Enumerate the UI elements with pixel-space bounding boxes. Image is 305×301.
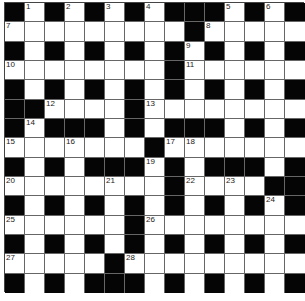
crossword-cell[interactable] [265,22,285,41]
crossword-cell[interactable] [145,61,165,80]
crossword-cell[interactable] [125,177,145,196]
crossword-cell[interactable] [245,22,265,41]
crossword-cell[interactable] [105,80,125,99]
crossword-cell[interactable]: 9 [185,42,205,61]
crossword-cell[interactable] [205,61,225,80]
crossword-cell[interactable] [25,274,45,293]
crossword-cell[interactable]: 15 [5,138,25,157]
crossword-cell[interactable] [85,138,105,157]
crossword-cell[interactable] [265,42,285,61]
crossword-cell[interactable] [265,138,285,157]
crossword-cell[interactable] [105,196,125,215]
crossword-cell[interactable] [105,61,125,80]
crossword-cell[interactable] [165,22,185,41]
crossword-cell[interactable] [145,80,165,99]
crossword-cell[interactable] [145,42,165,61]
crossword-cell[interactable] [185,254,205,273]
crossword-cell[interactable] [145,177,165,196]
crossword-cell[interactable]: 28 [125,254,145,273]
crossword-cell[interactable] [65,61,85,80]
crossword-cell[interactable] [45,254,65,273]
crossword-cell[interactable]: 1 [25,3,45,22]
crossword-cell[interactable] [65,158,85,177]
crossword-cell[interactable] [205,216,225,235]
crossword-cell[interactable] [265,80,285,99]
crossword-cell[interactable]: 19 [145,158,165,177]
crossword-cell[interactable]: 18 [185,138,205,157]
crossword-cell[interactable] [65,196,85,215]
crossword-cell[interactable] [105,138,125,157]
crossword-cell[interactable] [85,177,105,196]
crossword-cell[interactable] [65,100,85,119]
crossword-cell[interactable] [65,177,85,196]
crossword-cell[interactable] [25,80,45,99]
crossword-cell[interactable] [225,80,245,99]
crossword-cell[interactable] [185,100,205,119]
crossword-cell[interactable] [265,100,285,119]
crossword-cell[interactable] [65,216,85,235]
crossword-cell[interactable] [145,235,165,254]
crossword-cell[interactable] [45,138,65,157]
crossword-cell[interactable] [165,216,185,235]
crossword-cell[interactable] [125,22,145,41]
crossword-cell[interactable] [25,216,45,235]
crossword-cell[interactable] [265,61,285,80]
crossword-cell[interactable] [225,138,245,157]
crossword-cell[interactable] [285,216,305,235]
crossword-cell[interactable] [65,254,85,273]
crossword-cell[interactable] [145,119,165,138]
crossword-cell[interactable] [145,274,165,293]
crossword-cell[interactable] [205,254,225,273]
crossword-cell[interactable] [105,216,125,235]
crossword-cell[interactable] [225,196,245,215]
crossword-cell[interactable] [45,177,65,196]
crossword-cell[interactable]: 11 [185,61,205,80]
crossword-cell[interactable] [85,61,105,80]
crossword-cell[interactable]: 8 [205,22,225,41]
crossword-cell[interactable] [185,216,205,235]
crossword-cell[interactable] [185,196,205,215]
crossword-cell[interactable] [225,216,245,235]
crossword-cell[interactable]: 2 [65,3,85,22]
crossword-cell[interactable] [45,216,65,235]
crossword-cell[interactable] [145,22,165,41]
crossword-cell[interactable] [25,61,45,80]
crossword-cell[interactable] [25,158,45,177]
crossword-cell[interactable]: 10 [5,61,25,80]
crossword-cell[interactable] [245,216,265,235]
crossword-cell[interactable] [65,235,85,254]
crossword-cell[interactable] [205,100,225,119]
crossword-cell[interactable] [105,119,125,138]
crossword-cell[interactable] [245,61,265,80]
crossword-cell[interactable] [265,254,285,273]
crossword-cell[interactable] [225,100,245,119]
crossword-cell[interactable] [165,254,185,273]
crossword-cell[interactable] [285,61,305,80]
crossword-cell[interactable]: 27 [5,254,25,273]
crossword-cell[interactable] [205,177,225,196]
crossword-cell[interactable] [25,138,45,157]
crossword-cell[interactable] [85,100,105,119]
crossword-cell[interactable] [225,22,245,41]
crossword-cell[interactable] [65,42,85,61]
crossword-cell[interactable] [285,254,305,273]
crossword-cell[interactable] [25,235,45,254]
crossword-cell[interactable]: 22 [185,177,205,196]
crossword-cell[interactable] [65,274,85,293]
crossword-cell[interactable] [45,61,65,80]
crossword-cell[interactable] [105,42,125,61]
crossword-cell[interactable] [25,42,45,61]
crossword-cell[interactable] [285,138,305,157]
crossword-cell[interactable] [85,254,105,273]
crossword-cell[interactable]: 13 [145,100,165,119]
crossword-cell[interactable] [245,177,265,196]
crossword-cell[interactable] [125,138,145,157]
crossword-cell[interactable] [25,22,45,41]
crossword-cell[interactable] [145,196,165,215]
crossword-cell[interactable] [105,22,125,41]
crossword-cell[interactable] [225,61,245,80]
crossword-cell[interactable] [145,254,165,273]
crossword-cell[interactable] [285,100,305,119]
crossword-cell[interactable] [265,235,285,254]
crossword-cell[interactable] [185,158,205,177]
